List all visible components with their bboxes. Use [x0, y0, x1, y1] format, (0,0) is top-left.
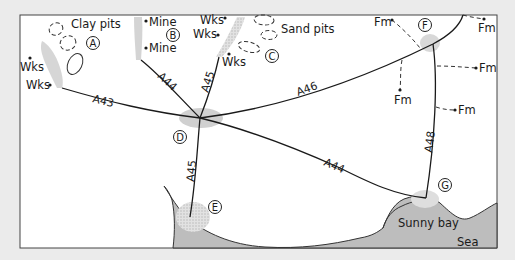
- svg-text:C: C: [269, 51, 276, 62]
- mine-dot-1: [144, 19, 147, 22]
- farm-label-4: Fm: [394, 93, 412, 107]
- farm-dot-3: [474, 66, 477, 69]
- site-D[interactable]: D: [174, 131, 187, 144]
- site-C[interactable]: C: [266, 50, 279, 63]
- farm-dot-4: [398, 88, 401, 91]
- settlement-E: [176, 202, 210, 232]
- sand-pits-label: Sand pits: [281, 22, 335, 36]
- works-dot-4: [216, 33, 219, 36]
- site-A[interactable]: A: [87, 37, 100, 50]
- svg-text:D: D: [176, 132, 184, 143]
- clay-pits-label: Clay pits: [71, 17, 121, 31]
- works-dot-2: [48, 83, 51, 86]
- mine-label-1: Mine: [149, 15, 176, 29]
- site-B[interactable]: B: [167, 29, 180, 42]
- settlement-G: [411, 190, 439, 208]
- farm-label-5: Fm: [458, 103, 476, 117]
- svg-text:A: A: [90, 38, 97, 49]
- svg-text:E: E: [212, 202, 218, 213]
- sunny-bay-label: Sunny bay: [398, 216, 459, 230]
- mine-dot-2: [144, 46, 147, 49]
- works-label-1: Wks: [20, 60, 44, 74]
- works-label-2: Wks: [26, 78, 50, 92]
- works-label-5: Wks: [222, 55, 246, 69]
- works-label-3: Wks: [200, 13, 224, 27]
- map-canvas: A43 A44 A45 A46 A44 A45 A48 A B C D E F …: [0, 0, 515, 260]
- site-F[interactable]: F: [419, 19, 432, 32]
- svg-text:B: B: [170, 30, 177, 41]
- farm-label-1: Fm: [374, 15, 392, 29]
- svg-text:F: F: [422, 20, 428, 31]
- farm-dot-5: [453, 108, 456, 111]
- sea-label: Sea: [457, 235, 478, 249]
- mine-label-2: Mine: [149, 41, 176, 55]
- site-G[interactable]: G: [439, 179, 452, 192]
- site-E[interactable]: E: [209, 201, 222, 214]
- farm-label-3: Fm: [479, 61, 497, 75]
- road-label-A45-south: A45: [184, 160, 199, 183]
- farm-label-2: Fm: [478, 21, 496, 35]
- works-dot-3: [223, 16, 226, 19]
- svg-text:G: G: [441, 180, 449, 191]
- works-label-4: Wks: [193, 27, 217, 41]
